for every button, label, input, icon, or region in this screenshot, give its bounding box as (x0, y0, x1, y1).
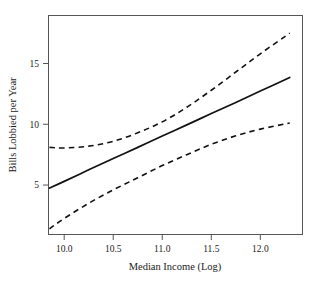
x-axis-title: Median Income (Log) (129, 261, 222, 273)
y-axis-title: Bills Lobbied per Year (7, 77, 18, 173)
figure-background (0, 0, 316, 281)
x-tick-label: 10.5 (105, 244, 122, 254)
y-tick-label: 10 (30, 120, 40, 130)
x-tick-label: 11.5 (203, 244, 220, 254)
x-tick-label: 10.0 (56, 244, 73, 254)
y-tick-label: 5 (34, 180, 39, 190)
regression-plot: 51015 10.010.511.011.512.0 Median Income… (0, 0, 316, 281)
x-tick-label: 11.0 (154, 244, 171, 254)
x-tick-label: 12.0 (252, 244, 269, 254)
y-tick-label: 15 (30, 59, 40, 69)
chart-figure: 51015 10.010.511.011.512.0 Median Income… (0, 0, 316, 281)
